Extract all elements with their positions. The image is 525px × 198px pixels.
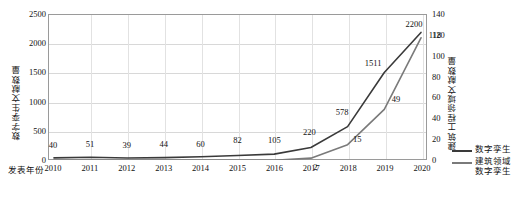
y-axis-right-tick-label: 140 (432, 9, 445, 19)
legend-item[interactable]: 数字孪生 (452, 145, 524, 155)
legend-line-swatch (452, 162, 472, 164)
x-axis-tick-label: 2020 (414, 163, 431, 173)
legend-item[interactable]: 建筑领域 数字孪生 (452, 157, 524, 177)
data-point-label: 105 (268, 135, 281, 145)
y-axis-left-tick-label: 500 (33, 126, 46, 136)
x-axis-tick-label: 2015 (229, 163, 246, 173)
y-axis-left-tick-label: 2500 (29, 9, 46, 19)
data-point-label: 82 (233, 135, 242, 145)
data-point-label: 51 (86, 139, 95, 149)
x-axis-tick-label: 2018 (340, 163, 357, 173)
y-axis-left-tick-label: 1500 (29, 67, 46, 77)
y-axis-right-tick-label: 0 (432, 155, 436, 165)
data-point-label: 578 (336, 107, 349, 117)
data-point-label: 118 (429, 30, 441, 40)
legend-line-swatch (452, 150, 472, 152)
x-axis-title: 发表年份 (8, 163, 44, 175)
x-axis-tick-label: 2012 (118, 163, 135, 173)
y-axis-right-tick-label: 80 (432, 72, 441, 82)
y-axis-right-tick-label: 20 (432, 134, 441, 144)
data-point-label: 1511 (365, 58, 382, 68)
y-axis-left-title: 数字孪生文献数量 (13, 30, 22, 140)
y-axis-right-tick-label: 100 (432, 51, 445, 61)
chart-figure: 数字孪生文献数量 建筑工程领域文献数量 发表年份 数字孪生建筑领域 数字孪生 0… (0, 0, 525, 198)
y-axis-right-title: 建筑工程领域文献数量 (449, 22, 458, 150)
x-axis-tick-label: 2013 (155, 163, 172, 173)
data-point-label: 39 (123, 140, 132, 150)
data-point-label: 2 (313, 162, 317, 172)
data-point-label: 44 (159, 139, 168, 149)
data-point-label: 15 (353, 134, 362, 144)
x-axis-tick-label: 2011 (82, 163, 99, 173)
x-axis-tick-label: 2016 (266, 163, 283, 173)
data-point-label: 49 (392, 94, 401, 104)
legend-item-label: 数字孪生 (475, 145, 511, 155)
data-point-label: 220 (303, 127, 316, 137)
y-axis-right-tick-label: 40 (432, 113, 441, 123)
legend-item-label: 建筑领域 数字孪生 (475, 157, 511, 177)
y-axis-left-tick-label: 1000 (29, 97, 46, 107)
data-point-label: 2200 (406, 19, 423, 29)
x-axis-tick-label: 2010 (45, 163, 62, 173)
y-axis-left-tick-label: 2000 (29, 38, 46, 48)
data-point-label: 40 (49, 140, 58, 150)
data-point-label: 60 (196, 139, 205, 149)
x-axis-tick-label: 2014 (192, 163, 209, 173)
y-axis-right-tick-label: 60 (432, 92, 441, 102)
x-axis-tick-label: 2019 (377, 163, 394, 173)
legend: 数字孪生建筑领域 数字孪生 (452, 145, 524, 178)
